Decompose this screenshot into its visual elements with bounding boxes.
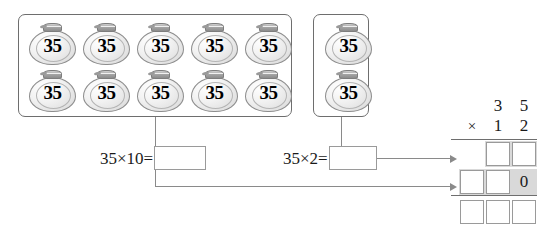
money-bag: 35	[188, 21, 241, 66]
connector-two-vertical	[341, 117, 342, 146]
money-bag-tie-icon	[43, 70, 62, 79]
money-bag-tie-icon	[43, 23, 62, 32]
money-bag-value: 35	[242, 36, 295, 55]
partial-product-one-row	[486, 142, 538, 166]
money-bag: 35	[322, 68, 375, 113]
worksheet-canvas: 35 35 35 35	[0, 0, 544, 246]
partial-one-tens-box[interactable]	[486, 142, 510, 166]
money-bag-tie-icon	[339, 23, 358, 32]
money-bag-value: 35	[188, 36, 241, 55]
equation-times-ten-label: 35×10=	[100, 150, 153, 167]
partial-product-two-row: 0	[460, 170, 538, 194]
partial-two-ones-box: 0	[512, 170, 536, 194]
bag-row: 35 35 35 35	[26, 68, 296, 113]
multiply-operator-icon: ×	[459, 116, 485, 136]
equation-times-two-answer-box[interactable]	[329, 146, 377, 170]
connector-ten-vertical-upper	[155, 117, 156, 146]
multiplication-rule-top	[451, 139, 537, 140]
money-bag: 35	[26, 21, 79, 66]
partial-two-hundreds-box[interactable]	[460, 170, 484, 194]
money-bag-value: 35	[242, 83, 295, 102]
ten-bags-group: 35 35 35 35	[18, 14, 292, 117]
bag-row: 35	[322, 21, 375, 66]
money-bag-value: 35	[80, 83, 133, 102]
money-bag: 35	[242, 68, 295, 113]
multiplier-tens: 1	[485, 116, 511, 136]
money-bag: 35	[322, 21, 375, 66]
multiplicand-ones: 5	[511, 96, 537, 116]
money-bag-tie-icon	[97, 70, 116, 79]
money-bag: 35	[80, 21, 133, 66]
total-hundreds-box[interactable]	[460, 200, 484, 224]
money-bag: 35	[242, 21, 295, 66]
money-bag-tie-icon	[151, 70, 170, 79]
money-bag: 35	[188, 68, 241, 113]
multiplicand-row: 3 5	[459, 96, 537, 116]
connector-ten-vertical-lower	[155, 170, 156, 186]
partial-one-ones-box[interactable]	[512, 142, 536, 166]
money-bag-tie-icon	[205, 70, 224, 79]
money-bag-value: 35	[322, 83, 375, 102]
equation-times-two-label: 35×2=	[283, 150, 328, 167]
equation-times-two: 35×2=	[283, 146, 377, 170]
money-bag-tie-icon	[339, 70, 358, 79]
money-bag: 35	[134, 68, 187, 113]
multiplier-row: × 1 2	[459, 116, 537, 136]
multiplication-rule-middle	[451, 195, 537, 196]
money-bag-tie-icon	[259, 70, 278, 79]
money-bag-value: 35	[188, 83, 241, 102]
money-bag-value: 35	[26, 83, 79, 102]
money-bag-value: 35	[322, 36, 375, 55]
total-ones-box[interactable]	[512, 200, 536, 224]
connector-ten-horizontal	[155, 186, 452, 187]
money-bag: 35	[80, 68, 133, 113]
money-bag-value: 35	[134, 83, 187, 102]
bag-row: 35	[322, 68, 375, 113]
money-bag: 35	[134, 21, 187, 66]
total-tens-box[interactable]	[486, 200, 510, 224]
money-bag-value: 35	[80, 36, 133, 55]
multiplier-ones: 2	[511, 116, 537, 136]
two-bags-group: 35 35	[313, 14, 369, 117]
money-bag-value: 35	[134, 36, 187, 55]
equation-times-ten: 35×10=	[100, 146, 206, 170]
equation-times-ten-answer-box[interactable]	[154, 146, 206, 170]
money-bag-tie-icon	[259, 23, 278, 32]
money-bag: 35	[26, 68, 79, 113]
vertical-multiplication: 3 5 × 1 2 0	[443, 96, 537, 242]
money-bag-tie-icon	[151, 23, 170, 32]
multiplicand-tens: 3	[485, 96, 511, 116]
bag-row: 35 35 35 35	[26, 21, 296, 66]
total-row	[460, 200, 538, 224]
money-bag-tie-icon	[205, 23, 224, 32]
money-bag-value: 35	[26, 36, 79, 55]
partial-two-tens-box[interactable]	[486, 170, 510, 194]
money-bag-tie-icon	[97, 23, 116, 32]
